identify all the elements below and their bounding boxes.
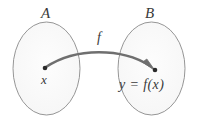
point-x-dot [43, 66, 48, 71]
function-label: f [97, 31, 101, 45]
image-y-label: y = f(x) [119, 78, 164, 92]
element-x-label: x [41, 73, 47, 86]
set-b-label: B [145, 6, 154, 21]
diagram-canvas [0, 0, 199, 124]
function-mapping-figure: A B f x y = f(x) [0, 0, 199, 124]
point-y-dot [153, 68, 158, 73]
set-a-label: A [41, 6, 50, 21]
